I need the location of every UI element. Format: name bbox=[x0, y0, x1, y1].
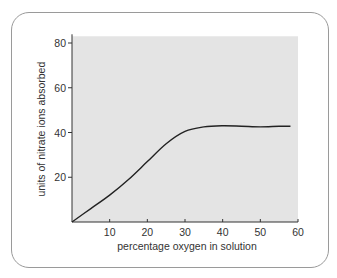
y-tick-label: 60 bbox=[54, 82, 66, 94]
x-tick-label: 60 bbox=[292, 226, 304, 238]
y-tick-label: 40 bbox=[54, 127, 66, 139]
x-tick-label: 50 bbox=[254, 226, 266, 238]
x-axis-title: percentage oxygen in solution bbox=[117, 240, 257, 252]
plot-area bbox=[72, 36, 298, 222]
y-tick-label: 80 bbox=[54, 37, 66, 49]
line-chart: 20406080 102030405060 percentage oxygen … bbox=[0, 0, 337, 278]
x-tick-label: 30 bbox=[179, 226, 191, 238]
x-tick-label: 40 bbox=[217, 226, 229, 238]
x-tick-label: 20 bbox=[141, 226, 153, 238]
y-tick-label: 20 bbox=[54, 171, 66, 183]
x-tick-label: 10 bbox=[104, 226, 116, 238]
y-axis-title: units of nitrate ions absorbed bbox=[35, 62, 47, 197]
y-axis-ticks: 20406080 bbox=[54, 37, 72, 183]
